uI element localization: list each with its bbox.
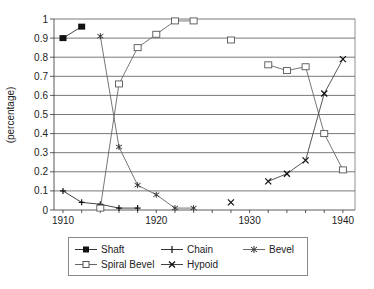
- x-tick-label: 1930: [238, 215, 261, 226]
- asterisk-marker-icon: [243, 244, 265, 255]
- y-tick-label: 1: [42, 14, 48, 25]
- x-tick-label: 1910: [52, 215, 75, 226]
- gridlines: [54, 19, 355, 191]
- legend-item-shaft: Shaft: [75, 243, 124, 256]
- legend-item-hypoid: Hypoid: [161, 258, 218, 271]
- legend-label: Chain: [187, 244, 213, 255]
- y-tick-label: 0.9: [34, 33, 48, 44]
- legend-label: Spiral Bevel: [101, 259, 154, 270]
- legend-item-spiral-bevel: Spiral Bevel: [75, 258, 154, 271]
- y-tick-label: 0.2: [34, 166, 48, 177]
- series-hypoid: [228, 56, 346, 205]
- x-tick-label: 1920: [145, 215, 168, 226]
- y-tick-label: 0.3: [34, 147, 48, 158]
- x-tick-label: 1940: [332, 215, 355, 226]
- legend-label: Shaft: [101, 244, 124, 255]
- series-bevel: [97, 33, 196, 211]
- filled-square-marker-icon: [75, 244, 97, 255]
- y-tick-label: 0.5: [34, 109, 48, 120]
- y-tick-label: 0.8: [34, 52, 48, 63]
- legend: Shaft Chain Bevel Spiral Bevel Hypoid: [68, 237, 308, 276]
- y-tick-label: 0: [42, 205, 48, 216]
- y-tick-label: 0.4: [34, 128, 48, 139]
- line-chart: 00.10.20.30.40.50.60.70.80.9119101920193…: [0, 0, 374, 235]
- legend-label: Bevel: [269, 244, 294, 255]
- y-tick-label: 0.7: [34, 71, 48, 82]
- open-square-marker-icon: [75, 259, 97, 270]
- y-tick-label: 0.1: [34, 185, 48, 196]
- x-marker-icon: [161, 259, 183, 270]
- legend-item-bevel: Bevel: [243, 243, 294, 256]
- legend-item-chain: Chain: [161, 243, 213, 256]
- y-tick-label: 0.6: [34, 90, 48, 101]
- plus-marker-icon: [161, 244, 183, 255]
- legend-label: Hypoid: [187, 259, 218, 270]
- axes: 00.10.20.30.40.50.60.70.80.9119101920193…: [34, 14, 355, 227]
- y-axis-label: (percentage): [5, 87, 16, 144]
